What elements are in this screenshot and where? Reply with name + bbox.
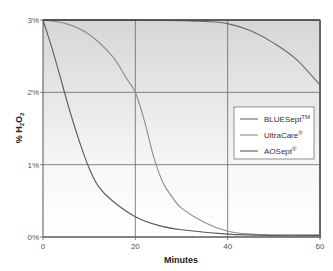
svg-text:% H2O2: % H2O2 [14,112,25,143]
x-tick-label: 40 [223,242,232,251]
y-axis-ticks: 0%1%2%3% [27,16,43,242]
y-axis-title: % H2O2 [14,112,25,143]
x-axis-title: Minutes [164,255,198,265]
x-tick-label: 20 [131,242,140,251]
y-tick-label: 2% [27,88,39,97]
y-tick-label: 0% [27,233,39,242]
x-axis-ticks: 0204060 [41,237,325,251]
h2o2-decay-chart: 0%1%2%3% 0204060 Minutes % H2O2 BLUESept… [0,0,333,271]
y-tick-label: 1% [27,161,39,170]
legend: BLUESeptTMUltraCare®AOSept® [234,107,314,159]
legend-label: UltraCare® [264,130,303,140]
x-tick-label: 0 [41,242,46,251]
y-tick-label: 3% [27,16,39,25]
x-tick-label: 60 [316,242,325,251]
